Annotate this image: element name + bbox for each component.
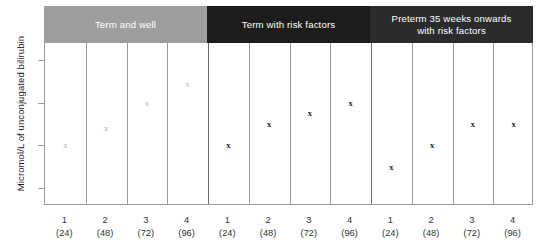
- group-divider: [371, 43, 372, 204]
- column-divider: [167, 43, 168, 204]
- x-tick-hours: (72): [301, 227, 318, 240]
- column-divider: [330, 43, 331, 204]
- data-point-marker: x: [185, 79, 190, 88]
- column-divider: [493, 43, 494, 204]
- x-tick-day: 4: [504, 214, 521, 227]
- x-tick-day: 3: [464, 214, 481, 227]
- x-tick-label: 3(72): [301, 214, 318, 240]
- x-tick-day: 4: [341, 214, 358, 227]
- x-tick-label: 1(24): [56, 214, 73, 240]
- x-tick-label: 4(96): [504, 214, 521, 240]
- x-tick-hours: (24): [382, 227, 399, 240]
- x-tick-day: 2: [423, 214, 440, 227]
- x-tick-day: 2: [260, 214, 277, 227]
- column-divider: [290, 43, 291, 204]
- group-header-term-and-well: Term and well: [44, 6, 207, 43]
- y-tick-mark: [38, 188, 44, 189]
- x-tick-hours: (72): [138, 227, 155, 240]
- group-header-label: Term with risk factors: [242, 19, 335, 31]
- x-tick-hours: (96): [178, 227, 195, 240]
- x-tick-label: 4(96): [178, 214, 195, 240]
- bilirubin-threshold-chart: Micromol/L of unconjugated bilirubin Ter…: [0, 0, 536, 251]
- x-tick-hours: (96): [341, 227, 358, 240]
- x-tick-hours: (96): [504, 227, 521, 240]
- x-tick-label: 3(72): [464, 214, 481, 240]
- group-divider: [208, 43, 209, 204]
- data-point-marker: x: [63, 141, 68, 150]
- x-tick-label: 4(96): [341, 214, 358, 240]
- column-divider: [453, 43, 454, 204]
- group-header-label-line2: with risk factors: [417, 25, 486, 36]
- group-header-label-line1: Preterm 35 weeks onwards: [392, 13, 512, 24]
- y-axis-title: Micromol/L of unconjugated bilirubin: [15, 19, 26, 209]
- data-point-marker: x: [349, 98, 353, 107]
- data-point-marker: x: [308, 109, 312, 118]
- x-tick-day: 2: [97, 214, 114, 227]
- x-tick-label: 1(24): [382, 214, 399, 240]
- column-divider: [412, 43, 413, 204]
- x-tick-label: 3(72): [138, 214, 155, 240]
- group-header-label: Term and well: [95, 19, 156, 31]
- x-tick-day: 1: [56, 214, 73, 227]
- x-tick-hours: (72): [464, 227, 481, 240]
- data-point-marker: x: [389, 162, 393, 171]
- group-header-term-with-risk-factors: Term with risk factors: [207, 6, 370, 43]
- data-point-marker: x: [512, 120, 516, 129]
- x-tick-label: 2(48): [97, 214, 114, 240]
- data-point-marker: x: [267, 120, 271, 129]
- x-tick-day: 3: [301, 214, 318, 227]
- x-tick-hours: (48): [423, 227, 440, 240]
- x-tick-label: 1(24): [219, 214, 236, 240]
- column-divider: [86, 43, 87, 204]
- x-tick-hours: (24): [56, 227, 73, 240]
- data-point-marker: x: [145, 98, 150, 107]
- y-tick-mark: [38, 60, 44, 61]
- y-tick-mark: [38, 103, 44, 104]
- y-tick-mark: [38, 145, 44, 146]
- group-header-preterm-with-risk-factors: Preterm 35 weeks onwards with risk facto…: [370, 6, 533, 43]
- column-divider: [127, 43, 128, 204]
- x-tick-day: 1: [219, 214, 236, 227]
- group-header-label: Preterm 35 weeks onwards with risk facto…: [392, 13, 512, 36]
- column-divider: [249, 43, 250, 204]
- data-point-marker: x: [104, 124, 109, 133]
- x-tick-hours: (48): [97, 227, 114, 240]
- x-tick-hours: (24): [219, 227, 236, 240]
- x-tick-day: 4: [178, 214, 195, 227]
- x-tick-label: 2(48): [260, 214, 277, 240]
- plot-area: xxxxxxxxxxxx: [44, 43, 533, 205]
- x-tick-day: 1: [382, 214, 399, 227]
- x-tick-label: 2(48): [423, 214, 440, 240]
- x-tick-hours: (48): [260, 227, 277, 240]
- data-point-marker: x: [226, 141, 230, 150]
- data-point-marker: x: [430, 141, 434, 150]
- data-point-marker: x: [471, 120, 475, 129]
- x-tick-day: 3: [138, 214, 155, 227]
